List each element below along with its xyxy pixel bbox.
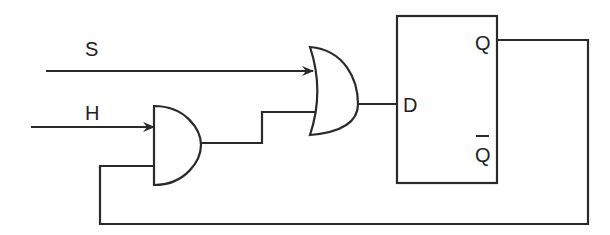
wire-and-to-or (201, 112, 318, 143)
input-h-label: H (85, 102, 99, 124)
or-gate (310, 47, 358, 135)
input-s: S (46, 38, 313, 71)
d-input-label: D (403, 94, 417, 116)
and-gate (154, 106, 201, 185)
circuit-diagram: S H D Q Q (0, 0, 610, 235)
d-flip-flop: D Q Q (397, 16, 497, 183)
q-bar-output-label: Q (475, 144, 491, 166)
input-h: H (31, 102, 154, 127)
q-output-label: Q (475, 32, 491, 54)
input-s-label: S (85, 38, 98, 60)
